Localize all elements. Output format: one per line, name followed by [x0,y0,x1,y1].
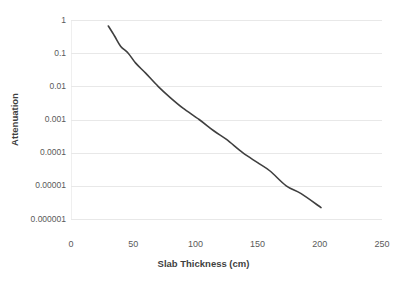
x-axis-tick-labels: 050100150200250 [0,239,407,253]
y-tick-label: 0.001 [45,115,66,124]
chart-container: 10.10.010.0010.00010.000010.000001 05010… [0,0,407,283]
y-tick-label: 0.000001 [31,215,66,224]
series-path [108,26,321,208]
y-tick-label: 0.1 [54,49,66,58]
plot-area [71,20,382,219]
y-tick-label: 0.00001 [35,181,66,190]
gridline-horizontal [71,219,382,220]
x-tick-label: 150 [250,239,265,249]
x-tick-label: 0 [68,239,73,249]
x-tick-label: 250 [374,239,389,249]
x-tick-label: 50 [128,239,138,249]
y-tick-label: 0.0001 [40,148,66,157]
series-line-attenuation [71,20,382,219]
x-axis-title: Slab Thickness (cm) [0,258,407,269]
x-tick-label: 100 [188,239,203,249]
y-tick-label: 1 [61,16,66,25]
x-tick-label: 200 [312,239,327,249]
y-tick-label: 0.01 [49,82,66,91]
y-axis-title: Attenuation [9,70,20,170]
